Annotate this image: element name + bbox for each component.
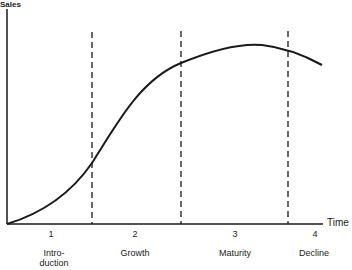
stage-number-2: 2	[132, 229, 137, 239]
stage-name-decline: Decline	[299, 248, 329, 258]
stage-number-4: 4	[312, 229, 317, 239]
stage-name-growth: Growth	[120, 248, 149, 258]
stage-number-1: 1	[48, 229, 53, 239]
stage-name-maturity: Maturity	[219, 248, 251, 258]
stage-number-3: 3	[232, 229, 237, 239]
sales-curve	[7, 45, 322, 224]
stage-name-introduction: Intro- duction	[39, 248, 68, 268]
x-axis-label: Time	[327, 218, 349, 228]
y-axis-label: Sales	[0, 0, 21, 10]
